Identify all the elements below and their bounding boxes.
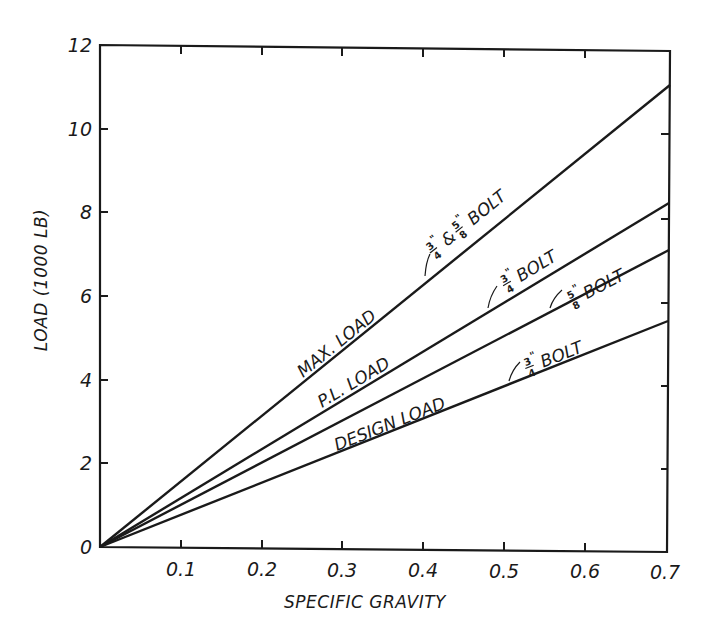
- leader-line: [509, 362, 520, 381]
- svg-text:8: 8: [571, 299, 582, 312]
- x-tick-labels: 0.1 0.2 0.3 0.4 0.5 0.6 0.7: [166, 558, 680, 583]
- svg-text:4: 4: [431, 249, 443, 262]
- y-axis-ticks: [100, 129, 108, 463]
- y-tick-label: 2: [80, 452, 92, 474]
- y-tick-label: 12: [68, 34, 92, 56]
- x-axis-title: SPECIFIC GRAVITY: [284, 592, 447, 612]
- y-axis-title: LOAD (1000 LB): [31, 209, 51, 352]
- series-lines: [100, 85, 670, 547]
- svg-text:4: 4: [504, 283, 516, 296]
- y-tick-label: 0: [80, 536, 92, 558]
- x-tick-label: 0.1: [166, 558, 196, 580]
- leader-line: [488, 286, 497, 308]
- y-tick-label: 8: [80, 201, 92, 223]
- y-tick-labels: 0 2 4 6 8 10 12: [68, 34, 92, 558]
- design-load-label: DESIGN LOAD: [331, 393, 448, 455]
- leader-line: [425, 254, 430, 276]
- svg-text:BOLT: BOLT: [463, 185, 511, 229]
- x-tick-label: 0.7: [650, 561, 680, 583]
- x-tick-label: 0.2: [247, 558, 277, 580]
- y-tick-label: 4: [80, 369, 92, 391]
- y-tick-label: 10: [68, 118, 92, 140]
- y-tick-label: 6: [80, 285, 92, 307]
- x-tick-label: 0.6: [570, 560, 600, 582]
- design-load-3-4-bolt-label: 3 4 " BOLT: [520, 332, 588, 380]
- leader-line: [550, 290, 562, 308]
- pl-load-5-8-bolt-label: 5 8 " BOLT: [562, 260, 630, 313]
- svg-text:BOLT: BOLT: [580, 264, 629, 303]
- svg-text:BOLT: BOLT: [513, 245, 562, 286]
- x-tick-label: 0.4: [408, 559, 438, 581]
- svg-text:8: 8: [457, 228, 469, 241]
- chart: 0 2 4 6 8 10 12 0.1 0.2 0.3 0.4 0.5 0.6 …: [0, 0, 710, 632]
- svg-text:BOLT: BOLT: [537, 336, 587, 371]
- x-tick-label: 0.5: [489, 560, 519, 582]
- plot-frame: [100, 45, 670, 552]
- max-load-line: [100, 85, 670, 547]
- x-tick-label: 0.3: [327, 559, 357, 581]
